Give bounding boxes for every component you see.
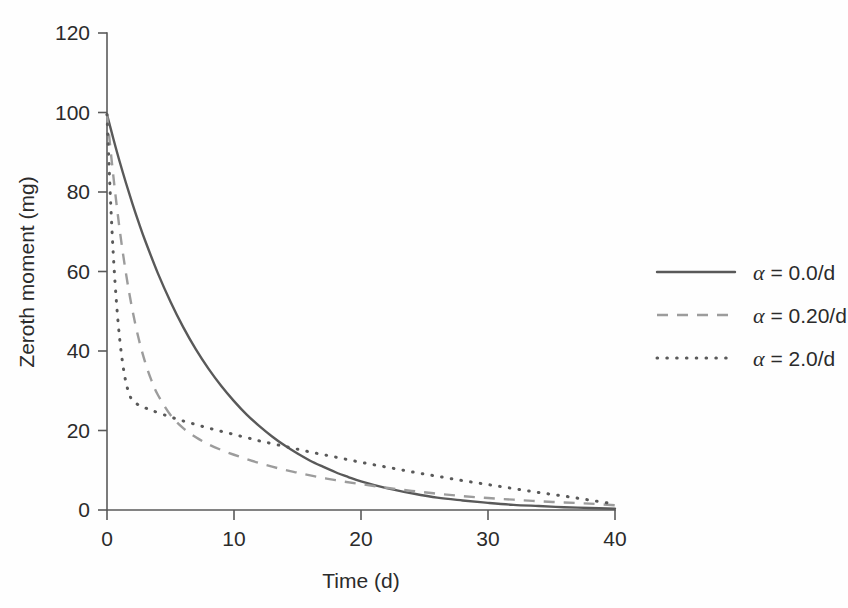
- x-tick-label: 0: [101, 527, 113, 550]
- y-tick-label: 120: [55, 21, 90, 44]
- y-tick-label: 40: [67, 339, 90, 362]
- series-line-alpha-2.0: [107, 114, 615, 504]
- y-tick-label: 100: [55, 101, 90, 124]
- y-tick-label: 0: [78, 498, 90, 521]
- series-line-alpha-0.0: [107, 114, 615, 508]
- legend-item-label-alpha-2.0: α = 2.0/d: [753, 346, 835, 371]
- figure-page: 020406080100120 010203040 Time (d) Zerot…: [0, 0, 848, 608]
- y-axis-ticks: 020406080100120: [55, 21, 107, 521]
- x-tick-label: 20: [349, 527, 372, 550]
- legend-alpha-symbol: α: [753, 346, 765, 371]
- legend-value-text: = 2.0/d: [765, 347, 836, 370]
- y-tick-label: 20: [67, 419, 90, 442]
- x-tick-label: 30: [476, 527, 499, 550]
- legend-alpha-symbol: α: [753, 260, 765, 285]
- legend-value-text: = 0.20/d: [765, 304, 847, 327]
- y-axis-title: Zeroth moment (mg): [15, 176, 38, 367]
- chart-legend: α = 0.0/dα = 0.20/dα = 2.0/d: [657, 260, 847, 371]
- legend-item-label-alpha-0.20: α = 0.20/d: [753, 303, 847, 328]
- x-tick-label: 10: [222, 527, 245, 550]
- x-axis-ticks: 010203040: [101, 510, 627, 550]
- legend-alpha-symbol: α: [753, 303, 765, 328]
- legend-item-label-alpha-0.0: α = 0.0/d: [753, 260, 835, 285]
- chart-svg: 020406080100120 010203040 Time (d) Zerot…: [0, 0, 848, 608]
- x-axis-title: Time (d): [322, 569, 399, 592]
- chart-series-group: [107, 114, 615, 508]
- x-tick-label: 40: [603, 527, 626, 550]
- y-tick-label: 80: [67, 180, 90, 203]
- chart-figure: 020406080100120 010203040 Time (d) Zerot…: [0, 0, 848, 608]
- y-tick-label: 60: [67, 260, 90, 283]
- legend-value-text: = 0.0/d: [765, 261, 836, 284]
- series-line-alpha-0.20: [107, 114, 615, 505]
